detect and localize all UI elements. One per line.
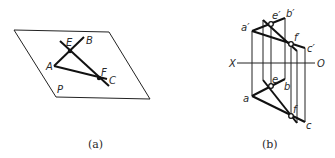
- figure-b: X O a′ e′ b′ f′ c′ e b a f: [228, 8, 325, 151]
- label-b: b: [284, 81, 290, 92]
- label-f-prime: f′: [294, 32, 301, 43]
- point-e: [68, 49, 72, 53]
- label-F: F: [101, 67, 107, 78]
- label-X: X: [228, 58, 237, 69]
- label-e: e: [272, 74, 278, 85]
- label-a-prime: a′: [241, 22, 250, 33]
- label-c-prime: c′: [307, 43, 315, 54]
- label-O: O: [317, 58, 325, 69]
- label-P: P: [57, 84, 64, 95]
- point-f-prime: [289, 42, 294, 47]
- label-e-prime: e′: [272, 10, 281, 21]
- point-e-prime: [269, 22, 274, 27]
- label-c: c: [306, 120, 312, 131]
- caption-a: (a): [88, 138, 103, 151]
- figure-a: E B A F C P (a): [14, 30, 150, 151]
- label-C: C: [109, 75, 116, 86]
- label-A: A: [45, 61, 53, 72]
- label-a: a: [243, 93, 249, 104]
- plane-p: [14, 30, 150, 99]
- caption-b: (b): [262, 138, 278, 151]
- label-B: B: [86, 35, 93, 46]
- label-b-prime: b′: [286, 8, 295, 19]
- label-E: E: [66, 37, 73, 48]
- projection-diagram: E B A F C P (a) X O: [0, 0, 335, 158]
